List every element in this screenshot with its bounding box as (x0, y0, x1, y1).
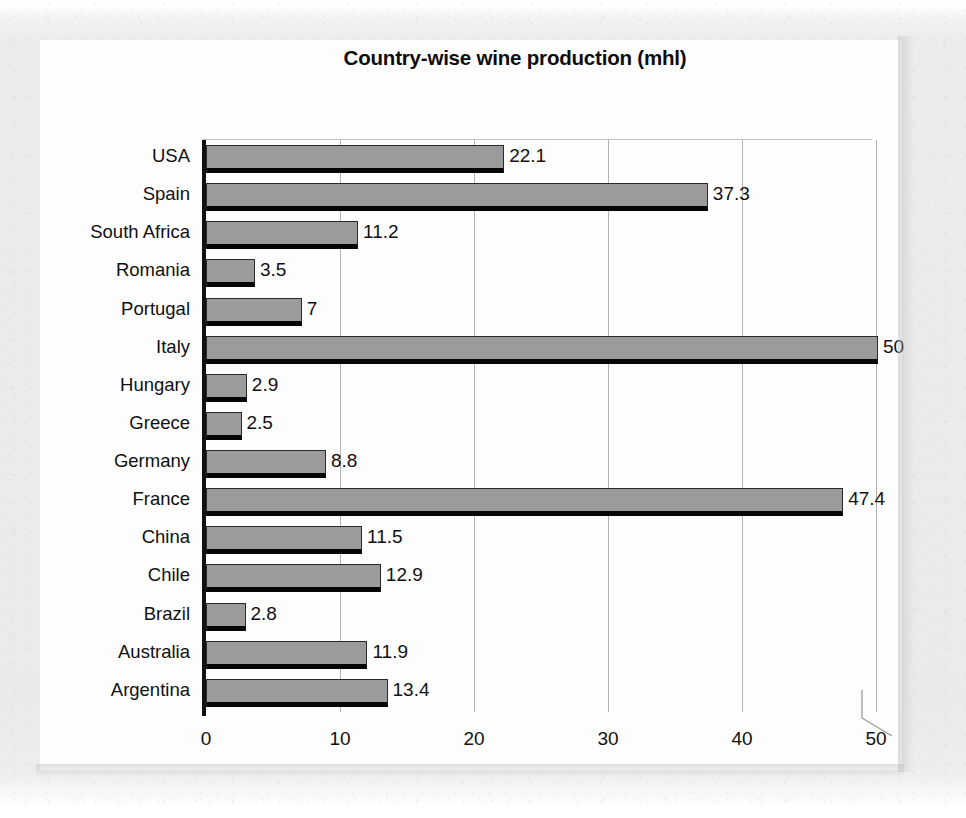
category-label: Portugal (121, 297, 190, 321)
bar-value-label: 3.5 (260, 258, 286, 282)
category-label: Australia (118, 640, 190, 664)
category-label: France (132, 487, 190, 511)
bar-row: Hungary2.9 (206, 369, 876, 407)
bar-row: Portugal7 (206, 293, 876, 331)
bar-row: Chile12.9 (206, 559, 876, 597)
bar (206, 641, 367, 669)
category-label: USA (152, 144, 190, 168)
chart-title: Country-wise wine production (mhl) (165, 46, 865, 70)
bar (206, 298, 302, 326)
bar (206, 259, 255, 287)
bar-row: Spain37.3 (206, 178, 876, 216)
bar-row: Brazil2.8 (206, 598, 876, 636)
bar-row: Australia11.9 (206, 636, 876, 674)
bar-value-label: 11.2 (363, 220, 399, 244)
bar (206, 374, 247, 402)
bar-row: USA22.1 (206, 140, 876, 178)
bar (206, 564, 381, 592)
x-tick-label: 20 (463, 728, 484, 750)
bar-row: Germany8.8 (206, 445, 876, 483)
x-tick-label: 0 (201, 728, 212, 750)
category-label: Romania (116, 258, 190, 282)
bar-value-label: 13.4 (393, 678, 430, 702)
bar-value-label: 37.3 (713, 182, 750, 206)
bar-row: South Africa11.2 (206, 216, 876, 254)
x-axis: 01020304050 (206, 716, 896, 756)
bar-value-label: 11.9 (372, 640, 408, 664)
category-label: Greece (129, 411, 190, 435)
category-label: Italy (156, 335, 190, 359)
bar-row: Italy50 (206, 331, 876, 369)
bar (206, 526, 362, 554)
category-label: Spain (143, 182, 190, 206)
gridline (876, 140, 877, 712)
bar-value-label: 22.1 (509, 144, 546, 168)
bar-row: Greece2.5 (206, 407, 876, 445)
x-tick-label: 40 (731, 728, 752, 750)
bar-value-label: 50 (883, 335, 904, 359)
bar (206, 145, 504, 173)
bar-value-label: 2.9 (252, 373, 278, 397)
category-label: Chile (148, 563, 190, 587)
plot-area: USA22.1Spain37.3South Africa11.2Romania3… (206, 140, 876, 712)
bar (206, 450, 326, 478)
category-label: Argentina (111, 678, 190, 702)
bar-row: Romania3.5 (206, 254, 876, 292)
category-label: Germany (114, 449, 190, 473)
bar-rows: USA22.1Spain37.3South Africa11.2Romania3… (206, 140, 876, 712)
bar-value-label: 2.5 (247, 411, 273, 435)
category-label: Brazil (144, 602, 190, 626)
x-tick-label: 50 (865, 728, 886, 750)
bar (206, 412, 242, 440)
bar (206, 679, 388, 707)
bar-value-label: 12.9 (386, 563, 423, 587)
category-label: China (142, 525, 190, 549)
bar-row: France47.4 (206, 483, 876, 521)
x-tick-label: 10 (329, 728, 350, 750)
category-label: Hungary (120, 373, 190, 397)
category-label: South Africa (90, 220, 190, 244)
bar (206, 603, 246, 631)
bar (206, 336, 878, 364)
bar-row: China11.5 (206, 521, 876, 559)
bar (206, 183, 708, 211)
bar-value-label: 8.8 (331, 449, 357, 473)
bar (206, 488, 843, 516)
bar-value-label: 7 (307, 297, 318, 321)
x-tick-label: 30 (597, 728, 618, 750)
bar (206, 221, 358, 249)
bar-value-label: 11.5 (367, 525, 403, 549)
bar-value-label: 47.4 (848, 487, 885, 511)
bar-row: Argentina13.4 (206, 674, 876, 712)
bar-value-label: 2.8 (251, 602, 277, 626)
